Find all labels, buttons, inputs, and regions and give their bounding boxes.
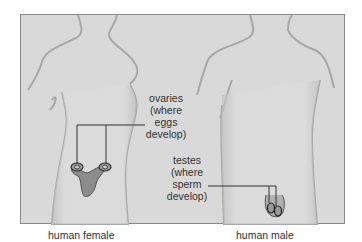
- testes-icon: [265, 195, 284, 217]
- testes-label-line: develop): [165, 190, 209, 202]
- male-caption: human male: [236, 229, 294, 241]
- ovaries-label-line: ovaries: [142, 92, 190, 104]
- female-caption: human female: [48, 229, 115, 241]
- ovaries-label: ovaries (where eggs develop): [142, 92, 190, 140]
- ovaries-label-line: eggs: [142, 116, 190, 128]
- testes-label: testes (where sperm develop): [165, 154, 209, 202]
- testes-label-line: sperm: [165, 178, 209, 190]
- ovaries-label-line: develop): [142, 128, 190, 140]
- ovaries-label-line: (where: [142, 104, 190, 116]
- testes-label-line: (where: [165, 166, 209, 178]
- testes-label-line: testes: [165, 154, 209, 166]
- male-body-icon: [197, 15, 334, 224]
